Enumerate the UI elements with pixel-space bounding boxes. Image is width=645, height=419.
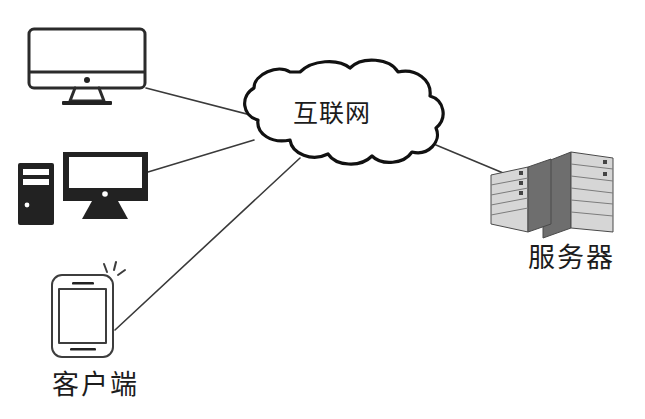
tower-monitor-dot bbox=[102, 191, 108, 197]
tower-monitor-stand bbox=[82, 201, 128, 219]
device-smartphone[interactable]: 客户端 bbox=[52, 262, 139, 400]
smartphone-icon bbox=[52, 275, 113, 357]
servers-node[interactable]: 服务器 bbox=[491, 152, 615, 273]
network-topology-diagram: 互联网 bbox=[0, 0, 645, 419]
cloud-node[interactable]: 互联网 bbox=[245, 60, 443, 164]
server-rack-icon-front bbox=[491, 159, 551, 232]
server-back-led-2 bbox=[603, 172, 607, 176]
clients-caption: 客户端 bbox=[52, 370, 139, 400]
tower-power-led bbox=[25, 203, 30, 208]
server-front-side-panel bbox=[528, 159, 551, 232]
diagram-canvas: 互联网 bbox=[0, 0, 645, 419]
connection-tower-pc-to-cloud bbox=[148, 140, 254, 172]
cloud-label: 互联网 bbox=[293, 100, 371, 127]
tower-drive-slot-1 bbox=[23, 169, 49, 175]
device-tower-pc[interactable] bbox=[18, 152, 148, 225]
monitor-camera-dot bbox=[84, 77, 90, 83]
server-back-led-1 bbox=[603, 160, 607, 164]
smartphone-sparkle-icon bbox=[104, 262, 125, 275]
tower-drive-slot-2 bbox=[23, 179, 49, 185]
monitor-base bbox=[62, 101, 112, 105]
smartphone-speaker bbox=[72, 282, 94, 285]
monitor-stand bbox=[70, 88, 104, 101]
tower-monitor-screen bbox=[69, 157, 142, 188]
server-front-led-3 bbox=[519, 191, 523, 195]
servers-caption: 服务器 bbox=[528, 243, 615, 273]
server-rack-icon-back bbox=[543, 152, 613, 238]
server-front-led-1 bbox=[519, 171, 523, 175]
smartphone-screen bbox=[59, 289, 106, 343]
server-front-led-2 bbox=[519, 181, 523, 185]
connection-cloud-to-servers bbox=[424, 140, 508, 175]
smartphone-home-bar bbox=[70, 348, 96, 351]
device-imac[interactable] bbox=[29, 29, 145, 105]
